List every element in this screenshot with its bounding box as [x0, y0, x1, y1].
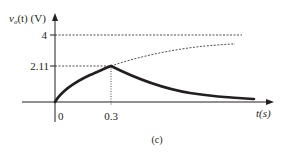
xtick-label-0: 0 — [58, 110, 64, 122]
discharging-curve — [111, 66, 254, 99]
x-axis-label: t(s) — [256, 107, 271, 120]
ytick-label-2.11: 2.11 — [30, 60, 49, 72]
charging-continuation-curve — [111, 44, 235, 66]
y-axis-label: vo(t) (V) — [9, 12, 46, 26]
charging-curve — [55, 66, 111, 102]
ytick-label-4: 4 — [42, 29, 48, 41]
x-axis-arrow-icon — [266, 99, 274, 105]
xtick-label-0.3: 0.3 — [104, 110, 118, 122]
voltage-chart: vo(t) (V) 4 2.11 0 0.3 t(s) (c) — [0, 0, 291, 154]
y-axis-arrow-icon — [52, 13, 58, 21]
figure-caption: (c) — [151, 134, 162, 146]
